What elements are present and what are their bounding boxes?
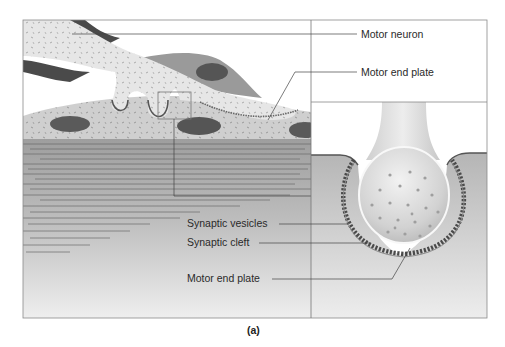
label-synaptic-cleft: Synaptic cleft	[187, 237, 249, 248]
nucleus	[50, 116, 90, 132]
figure-caption: (a)	[247, 324, 260, 336]
label-motor-end-plate-top: Motor end plate	[361, 67, 434, 78]
nucleus	[177, 117, 221, 135]
axon-terminal-bulb	[359, 147, 449, 243]
left-panel	[23, 20, 321, 318]
label-motor-neuron: Motor neuron	[361, 29, 423, 40]
label-synaptic-vesicles: Synaptic vesicles	[187, 218, 268, 229]
neuromuscular-junction-figure: Motor neuron Motor end plate Synaptic ve…	[0, 0, 505, 347]
right-panel	[311, 102, 487, 318]
nucleus	[196, 63, 228, 81]
diagram-illustration	[0, 0, 505, 347]
label-motor-end-plate-bottom: Motor end plate	[187, 273, 260, 284]
